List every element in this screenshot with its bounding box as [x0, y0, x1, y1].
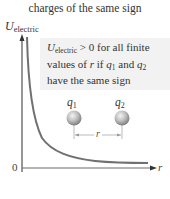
x-axis-arrow-icon	[150, 166, 157, 171]
charge-label-q1: q1	[67, 96, 77, 110]
origin-label: 0	[12, 161, 18, 173]
q1-label-sub: 1	[73, 101, 77, 110]
dimension-left-arrow-icon	[75, 134, 79, 137]
y-axis-arrow-icon	[20, 34, 25, 41]
separation-label: r	[94, 128, 102, 139]
x-axis	[22, 166, 157, 171]
y-axis	[20, 34, 25, 172]
dimension-right-arrow-icon	[117, 134, 121, 137]
charge-label-q2: q2	[115, 96, 125, 110]
plot-area	[0, 0, 170, 199]
potential-energy-curve	[27, 37, 148, 163]
x-axis-label: r	[158, 161, 162, 173]
q2-label-sub: 2	[121, 101, 125, 110]
sphere-q1-icon	[67, 111, 82, 126]
sphere-q2-icon	[115, 111, 130, 126]
